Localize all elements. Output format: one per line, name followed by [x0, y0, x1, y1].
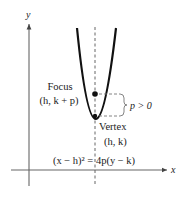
parabola-equation: (x − h)² = 4p(y − k) [53, 155, 136, 167]
y-axis-label: y [25, 9, 31, 20]
parabola-curve [77, 28, 116, 119]
focus-coords: (h, k + p) [39, 95, 79, 107]
parabola-diagram: y x p > 0 Focus (h, k + p) Vertex (h, k)… [0, 0, 187, 201]
x-axis-label: x [170, 164, 176, 175]
vertex-label: Vertex [99, 121, 127, 132]
focus-label: Focus [47, 81, 72, 92]
distance-brace [120, 94, 127, 116]
focus-point [92, 91, 98, 97]
vertex-coords: (h, k) [104, 136, 127, 148]
vertex-point [93, 114, 97, 118]
distance-label: p > 0 [129, 100, 152, 111]
